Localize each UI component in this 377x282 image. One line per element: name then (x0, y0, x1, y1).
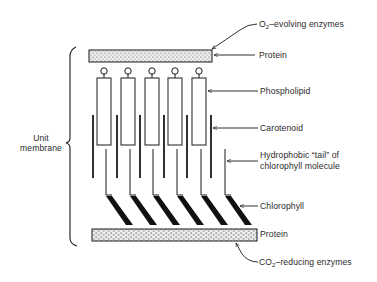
label-protein-bottom: Protein (260, 229, 288, 239)
label-hydrophobic-tail-line2: chlorophyll molecule (260, 161, 340, 171)
chlorophyll-1 (106, 196, 133, 225)
o2-enzymes-arrow (212, 24, 257, 49)
protein-layer-bottom (92, 229, 257, 241)
o2-suffix: –evolving enzymes (269, 19, 344, 29)
unit-membrane-line2: membrane (18, 143, 64, 153)
label-hydrophobic-tail-line1: Hydrophobic “tail” of (260, 150, 339, 160)
protein-layer-top (89, 50, 212, 62)
thylakoid-membrane-diagram: O2–evolving enzymes Protein Phospholipid… (0, 0, 377, 282)
chlorophyll-tail-group (106, 149, 231, 195)
phospholipid-group (97, 68, 206, 145)
label-phospholipid: Phospholipid (260, 86, 310, 96)
label-unit-membrane: Unit membrane (18, 133, 64, 153)
phospholipid-4 (168, 68, 182, 145)
chlorophyll-head-group (106, 196, 252, 225)
chlorophyll-6 (225, 196, 252, 225)
chlorophyll-3 (153, 196, 180, 225)
co2-enzymes-arrow (236, 243, 258, 262)
label-carotenoid: Carotenoid (260, 123, 303, 133)
chlorophyll-2 (130, 196, 157, 225)
label-o2-evolving-enzymes: O2–evolving enzymes (259, 19, 344, 29)
leader-lines (208, 24, 258, 262)
chlorophyll-5 (201, 196, 228, 225)
label-co2-reducing-enzymes: CO2–reducing enzymes (259, 257, 352, 267)
unit-membrane-brace (66, 47, 77, 246)
phospholipid-1 (97, 68, 111, 145)
label-protein-top: Protein (259, 50, 287, 60)
chlorophyll-4 (177, 196, 204, 225)
unit-membrane-line1: Unit (18, 133, 64, 143)
co2-suffix: –reducing enzymes (276, 257, 352, 267)
phospholipid-5 (192, 68, 206, 145)
phospholipid-2 (121, 68, 135, 145)
phospholipid-3 (145, 68, 159, 145)
o2-prefix: O (259, 19, 266, 29)
label-chlorophyll: Chlorophyll (260, 201, 304, 211)
co2-prefix: CO (259, 257, 272, 267)
